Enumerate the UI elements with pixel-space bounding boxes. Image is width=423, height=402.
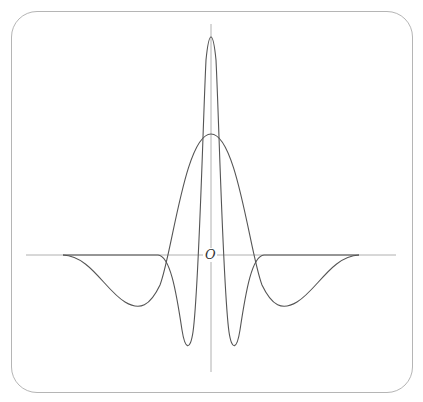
wavelet-plot: O bbox=[0, 0, 423, 402]
origin-label: O bbox=[205, 247, 216, 262]
